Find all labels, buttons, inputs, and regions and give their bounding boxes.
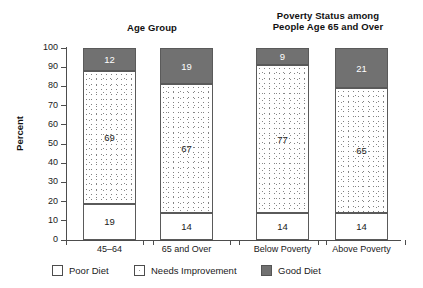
bar-segment-value-label: 19 — [104, 216, 115, 227]
y-axis-tick-label: 80 — [34, 80, 58, 90]
y-axis-tick-label: 100 — [34, 42, 58, 52]
chart-title-poverty-status: Poverty Status among People Age 65 and O… — [240, 10, 416, 32]
y-axis-tick — [61, 220, 66, 221]
legend-label-good-diet: Good Diet — [278, 265, 321, 276]
bar-segment-poor-diet[interactable]: 19 — [83, 204, 136, 240]
y-axis-tick-label: 40 — [34, 157, 58, 167]
y-axis-tick-label: 10 — [34, 215, 58, 225]
bar-segment-good-diet[interactable]: 19 — [160, 48, 213, 84]
bar-segment-needs-improvement[interactable]: 77 — [256, 65, 309, 213]
legend-swatch-poor-diet-icon — [52, 265, 63, 276]
stacked-bar[interactable]: 146719 — [160, 48, 213, 240]
chart-legend: Poor Diet Needs Improvement Good Diet — [0, 262, 423, 280]
y-axis-tick-label: 50 — [34, 138, 58, 148]
bar-segment-value-label: 14 — [181, 221, 192, 232]
x-axis-category-label: Above Poverty — [312, 244, 412, 254]
y-axis-tick — [61, 124, 66, 125]
bar-segment-value-label: 14 — [277, 221, 288, 232]
y-axis-tick-label: 20 — [34, 196, 58, 206]
chart-title-poverty-line-1: Poverty Status among — [240, 10, 416, 21]
bar-segment-value-label: 67 — [181, 143, 192, 154]
x-axis-line — [66, 240, 401, 241]
y-axis-tick — [61, 48, 66, 49]
bar-segment-needs-improvement[interactable]: 65 — [335, 88, 388, 213]
x-axis-tick — [230, 240, 231, 245]
y-axis-tick-label: 0 — [34, 234, 58, 244]
bar-segment-needs-improvement[interactable]: 67 — [160, 84, 213, 213]
y-axis-tick — [61, 86, 66, 87]
bar-segment-value-label: 21 — [356, 63, 367, 74]
x-axis-tick — [318, 240, 319, 245]
legend-label-poor-diet: Poor Diet — [69, 265, 109, 276]
bar-segment-value-label: 65 — [356, 145, 367, 156]
bar-segment-value-label: 9 — [280, 51, 285, 62]
stacked-bar[interactable]: 146521 — [335, 48, 388, 240]
y-axis-title: Percent — [14, 104, 25, 164]
legend-swatch-good-diet-icon — [261, 265, 272, 276]
y-axis-tick — [61, 105, 66, 106]
y-axis-tick-label: 90 — [34, 61, 58, 71]
y-axis-line — [66, 47, 67, 241]
y-axis-tick-label: 60 — [34, 119, 58, 129]
bar-segment-good-diet[interactable]: 12 — [83, 48, 136, 71]
x-axis-tick — [143, 240, 144, 245]
y-axis-tick-label: 70 — [34, 100, 58, 110]
legend-item-needs-improvement[interactable]: Needs Improvement — [134, 262, 237, 278]
y-axis-tick — [61, 201, 66, 202]
x-axis-tick — [239, 240, 240, 245]
y-axis-tick — [61, 163, 66, 164]
x-axis-category-label: 65 and Over — [137, 244, 237, 254]
legend-swatch-needs-improvement-icon — [134, 265, 145, 276]
bar-segment-value-label: 19 — [181, 61, 192, 72]
bar-segment-value-label: 77 — [277, 134, 288, 145]
legend-item-good-diet[interactable]: Good Diet — [261, 262, 321, 278]
bar-segment-needs-improvement[interactable]: 69 — [83, 71, 136, 203]
x-axis-tick — [405, 240, 406, 245]
legend-label-needs-improvement: Needs Improvement — [151, 265, 237, 276]
bar-segment-value-label: 69 — [104, 132, 115, 143]
chart-title-age-group: Age Group — [72, 22, 232, 33]
chart-title-poverty-line-2: People Age 65 and Over — [240, 21, 416, 32]
bar-segment-good-diet[interactable]: 9 — [256, 48, 309, 65]
y-axis-tick — [61, 67, 66, 68]
stacked-bar[interactable]: 14779 — [256, 48, 309, 240]
bar-segment-poor-diet[interactable]: 14 — [160, 213, 213, 240]
bar-segment-poor-diet[interactable]: 14 — [256, 213, 309, 240]
bar-segment-value-label: 14 — [356, 221, 367, 232]
x-axis-tick — [66, 240, 67, 245]
stacked-bar[interactable]: 196912 — [83, 48, 136, 240]
bar-segment-value-label: 12 — [104, 54, 115, 65]
y-axis-tick — [61, 144, 66, 145]
bar-segment-poor-diet[interactable]: 14 — [335, 213, 388, 240]
bar-segment-good-diet[interactable]: 21 — [335, 48, 388, 88]
legend-item-poor-diet[interactable]: Poor Diet — [52, 262, 109, 278]
y-axis-tick-labels: 0102030405060708090100 — [32, 0, 58, 288]
y-axis-tick — [61, 182, 66, 183]
y-axis-tick-label: 30 — [34, 176, 58, 186]
